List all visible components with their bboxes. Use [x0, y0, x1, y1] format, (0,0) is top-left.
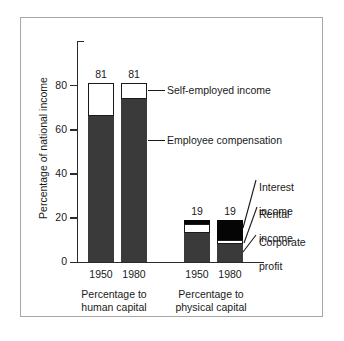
bar-total-physical-1980: 19 — [207, 205, 253, 217]
chart-plot-area: 0 20 40 60 80 Percentage of national inc… — [0, 0, 344, 341]
bar-total-human-1980: 81 — [111, 68, 157, 80]
x-axis-line — [77, 262, 264, 263]
segment-corporate-profit-1950 — [184, 233, 210, 262]
leader-line-employee-compensation — [148, 140, 165, 141]
callout-corporate-profit-line1: Corporate — [259, 236, 306, 248]
x-tick-label-human-1980: 1980 — [111, 268, 157, 280]
bar-physical-1980 — [217, 220, 243, 262]
y-tick-80 — [70, 85, 77, 86]
segment-employee-compensation-1980 — [121, 99, 147, 262]
x-tick-label-physical-1980: 1980 — [207, 268, 253, 280]
y-tick-60 — [70, 129, 77, 130]
leader-line-interest-income — [243, 180, 256, 228]
bar-physical-1950 — [184, 220, 210, 262]
bar-human-1950 — [88, 83, 114, 262]
segment-corporate-profit-1980 — [217, 244, 243, 262]
leader-line-self-employed-income — [148, 90, 165, 91]
segment-self-employed-income-1980 — [121, 83, 147, 98]
callout-employee-compensation: Employee compensation — [167, 134, 282, 146]
segment-rental-income-1950 — [184, 224, 210, 233]
bar-human-1980 — [121, 83, 147, 262]
segment-interest-income-1980 — [217, 220, 243, 240]
callout-self-employed-income: Self-employed income — [167, 84, 271, 96]
leader-line-corporate-profit — [243, 235, 256, 252]
group-label-physical-line2: physical capital — [151, 301, 271, 314]
y-axis-title: Percentage of national income — [37, 58, 49, 238]
y-tick-0 — [70, 262, 77, 263]
segment-employee-compensation-1950 — [88, 116, 114, 262]
callout-interest-income-line1: Interest — [259, 181, 294, 193]
y-tick-label-0: 0 — [41, 256, 67, 266]
segment-self-employed-income-1950 — [88, 83, 114, 116]
callout-corporate-profit: Corporate profit — [259, 224, 306, 284]
y-tick-20 — [70, 217, 77, 218]
y-tick-40 — [70, 173, 77, 174]
chart-page: 0 20 40 60 80 Percentage of national inc… — [0, 0, 344, 341]
callout-rental-income-line1: Rental — [259, 208, 293, 220]
y-axis-top-cap — [77, 41, 84, 42]
callout-corporate-profit-line2: profit — [259, 260, 306, 272]
group-label-physical-capital: Percentage to physical capital — [151, 288, 271, 313]
group-label-physical-line1: Percentage to — [151, 288, 271, 301]
